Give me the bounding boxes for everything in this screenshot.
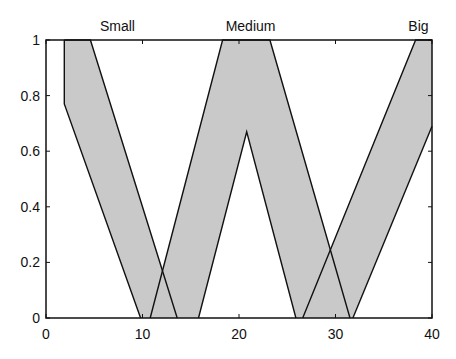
x-tick-label: 30 [328, 326, 344, 342]
x-axis-labels: 010203040 [42, 326, 440, 342]
chart-svg: 010203040 00.20.40.60.81 SmallMediumBig [0, 0, 456, 359]
y-tick-label: 0 [32, 310, 40, 326]
membership-bands [64, 40, 432, 318]
y-tick-label: 0.8 [21, 88, 41, 104]
label-medium: Medium [226, 18, 276, 34]
x-tick-label: 40 [424, 326, 440, 342]
y-tick-label: 0.2 [21, 254, 41, 270]
y-tick-label: 0.6 [21, 143, 41, 159]
y-tick-label: 1 [32, 32, 40, 48]
y-axis-labels: 00.20.40.60.81 [21, 32, 41, 326]
x-tick-label: 10 [135, 326, 151, 342]
band-big [303, 40, 432, 318]
y-tick-label: 0.4 [21, 199, 41, 215]
x-tick-label: 20 [231, 326, 247, 342]
band-small [64, 40, 177, 318]
label-big: Big [408, 18, 428, 34]
series-labels: SmallMediumBig [100, 18, 429, 34]
label-small: Small [100, 18, 135, 34]
x-tick-label: 0 [42, 326, 50, 342]
